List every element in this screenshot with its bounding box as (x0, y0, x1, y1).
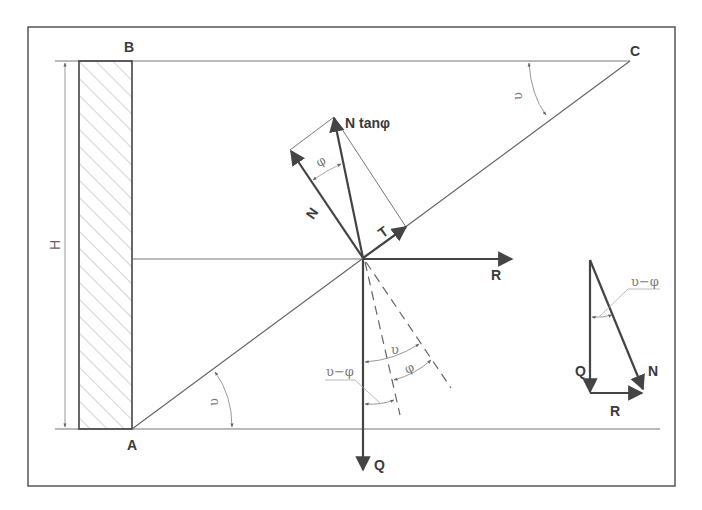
point-a-label: A (127, 437, 137, 453)
angle-phi-bottom-label: φ (402, 359, 417, 376)
angle-arc-phi-top (313, 164, 341, 180)
dashed-line-inner (365, 262, 400, 415)
force-n-label: N (302, 205, 321, 222)
force-n-tan-phi-label: N tanφ (345, 115, 390, 131)
triangle-leader-line (600, 289, 660, 316)
triangle-angle-label: υ−φ (631, 274, 659, 289)
angle-upsilon-bottom-label: υ (391, 342, 399, 357)
angle-upsilon-c-label: υ (510, 92, 525, 100)
leader-line-upsilon-minus-phi-bottom (325, 380, 380, 403)
retaining-wall (79, 61, 132, 429)
point-b-label: B (124, 39, 134, 55)
triangle-r-label: R (610, 403, 620, 419)
angle-phi-top-label: φ (313, 152, 328, 170)
height-label: H (47, 240, 63, 250)
triangle-angle-arc (592, 315, 612, 317)
triangle-n-label: N (648, 363, 658, 379)
diagram-canvas: H B A C υ υ N N tanφ φ T R Q υ φ υ−φ υ (0, 0, 702, 510)
force-r-label: R (491, 267, 501, 283)
angle-upsilon-a-label: υ (206, 398, 221, 406)
point-c-label: C (630, 43, 640, 59)
force-q-label: Q (374, 457, 385, 473)
triangle-q-label: Q (575, 363, 586, 379)
angle-upsilon-minus-phi-bottom-label: υ−φ (326, 364, 354, 379)
construction-line-n-top (290, 117, 334, 150)
angle-arc-c (529, 63, 546, 115)
